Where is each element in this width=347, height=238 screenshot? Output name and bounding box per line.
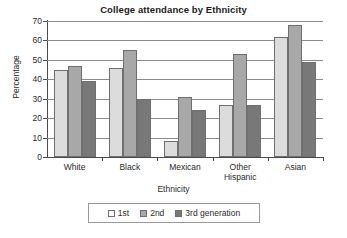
bar-group [213, 21, 268, 157]
x-axis-tick-mark [213, 157, 214, 161]
y-axis-tick-label: 40 [24, 75, 42, 84]
legend-item[interactable]: 2nd [140, 209, 164, 218]
y-axis-tick-mark [43, 60, 47, 61]
bar [109, 68, 123, 157]
legend-item[interactable]: 1st [108, 209, 129, 218]
bar [288, 25, 302, 157]
x-axis-tick-label-line: Asian [268, 162, 323, 172]
y-axis-tick-label: 60 [24, 36, 42, 45]
legend-label: 1st [118, 209, 129, 218]
bar [123, 50, 137, 157]
y-axis-tick-label: 30 [24, 95, 42, 104]
x-axis-tick-label-line: Mexican [157, 162, 212, 172]
y-axis-tick-mark [43, 118, 47, 119]
y-axis-tick-labels: 010203040506070 [20, 0, 42, 238]
y-axis-tick-mark [43, 157, 47, 158]
bar [54, 70, 68, 157]
y-axis-tick-mark [43, 138, 47, 139]
bar-group [268, 21, 323, 157]
chart-title: College attendance by Ethnicity [0, 4, 347, 15]
bar [82, 81, 96, 157]
x-axis-tick-mark [102, 157, 103, 161]
y-axis-tick-label: 0 [24, 153, 42, 162]
bar [233, 54, 247, 157]
x-axis-line [47, 157, 324, 158]
x-axis-tick-mark [157, 157, 158, 161]
bar [192, 110, 206, 157]
y-axis-tick-mark [43, 21, 47, 22]
x-axis-tick-label-line: Hispanic [213, 172, 268, 182]
legend-item[interactable]: 3rd generation [175, 209, 240, 218]
legend-swatch-icon [175, 210, 182, 217]
x-axis-tick-label: Mexican [157, 162, 212, 172]
y-axis-tick-mark [43, 99, 47, 100]
bar-group [157, 21, 212, 157]
x-axis-tick-mark [268, 157, 269, 161]
bar [178, 97, 192, 157]
bar-chart: College attendance by Ethnicity 01020304… [0, 0, 347, 238]
legend-swatch-icon [140, 210, 147, 217]
bar-group [47, 21, 102, 157]
x-axis-tick-label: Asian [268, 162, 323, 172]
legend-label: 2nd [150, 209, 164, 218]
bar [274, 37, 288, 157]
y-axis-tick-mark [43, 40, 47, 41]
bar [68, 66, 82, 157]
x-axis-tick-label-line: Other [213, 162, 268, 172]
y-axis-tick-label: 50 [24, 56, 42, 65]
y-axis-tick-label: 70 [24, 17, 42, 26]
y-axis-title: Percentage [11, 22, 21, 132]
x-axis-tick-label: OtherHispanic [213, 162, 268, 182]
bar [137, 99, 151, 157]
x-axis-tick-label-line: Black [102, 162, 157, 172]
y-axis-tick-label: 10 [24, 134, 42, 143]
x-axis-tick-mark [323, 157, 324, 161]
legend-label: 3rd generation [185, 209, 240, 218]
bar [247, 105, 261, 157]
bar [219, 105, 233, 157]
bar [164, 141, 178, 157]
legend-swatch-icon [108, 210, 115, 217]
bar-group [102, 21, 157, 157]
y-axis-tick-label: 20 [24, 114, 42, 123]
x-axis-title: Ethnicity [0, 184, 347, 194]
plot-area [47, 21, 323, 157]
chart-legend: 1st2nd3rd generation [88, 203, 260, 223]
y-axis-tick-mark [43, 79, 47, 80]
x-axis-tick-label-line: White [47, 162, 102, 172]
x-axis-tick-label: White [47, 162, 102, 172]
x-axis-tick-label: Black [102, 162, 157, 172]
bar [302, 62, 316, 157]
